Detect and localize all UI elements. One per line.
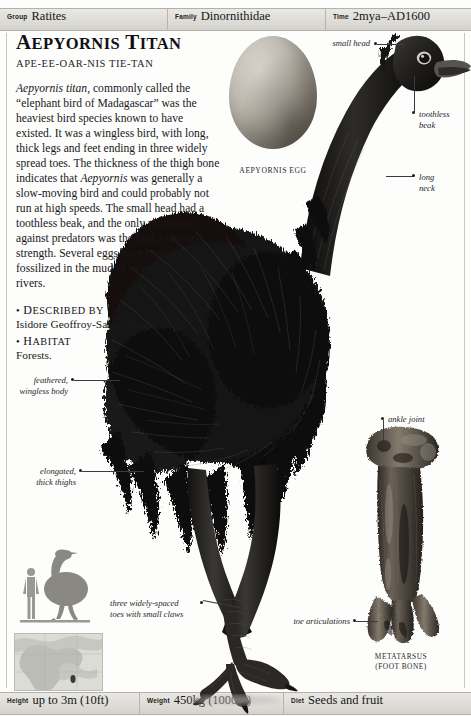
bone-caption-line2: (FOOT BONE) — [340, 662, 462, 672]
annotation-toothless-beak-line1: toothless — [419, 109, 450, 120]
annotation-small-head: small head — [308, 38, 370, 49]
fact-file-page: Group Ratites Family Dinornithidae Time … — [0, 0, 471, 716]
metatarsus-bone-photo — [358, 424, 444, 646]
article-text-column: AEPYORNIS TITAN APE-EE-OAR-NIS TIE-TAN A… — [16, 30, 221, 363]
annotation-toothless-beak-dot — [412, 111, 415, 114]
habitat-value: Forests. — [16, 349, 221, 363]
title-second-initial: T — [125, 30, 139, 54]
section-heading-habitat: • HABITAT — [16, 334, 221, 349]
annotation-toe-articulations-leader — [356, 621, 378, 622]
species-name-italic-2: Aepyornis — [80, 172, 127, 185]
annotation-feathered-body-line1: feathered, — [8, 375, 68, 386]
title-rest: EPYORNIS — [32, 34, 120, 53]
annotation-small-head-dot — [374, 42, 377, 45]
annotation-toothless-beak-leader — [414, 76, 415, 112]
annotation-feathered-body-dot — [71, 378, 74, 381]
pronunciation-guide: APE-EE-OAR-NIS TIE-TAN — [16, 58, 221, 69]
annotation-long-neck-dot — [412, 174, 415, 177]
aepyornis-egg-photo — [229, 36, 317, 149]
annotation-small-head-leader — [377, 44, 405, 45]
description-paragraph: Aepyornis titan, commonly called the “el… — [16, 81, 221, 292]
annotation-three-toes-line1: three widely-spaced — [110, 598, 183, 609]
annotation-long-neck-line2: neck — [419, 183, 435, 194]
description-part-2: was generally a slow-moving bird and cou… — [16, 172, 217, 290]
annotation-toe-articulations-dot — [353, 619, 356, 622]
annotation-ankle-joint: ankle joint — [388, 414, 425, 425]
distribution-map — [14, 633, 103, 691]
annotation-toothless-beak-line2: beak — [419, 120, 450, 131]
annotation-elongated-thighs-line2: thick thighs — [20, 477, 76, 488]
annotation-feathered-body-leader — [74, 380, 120, 381]
annotation-long-neck-leader — [386, 176, 413, 177]
annotation-toothless-beak: toothless beak — [419, 109, 450, 131]
annotation-ankle-joint-leader — [383, 420, 384, 440]
section-heading-described-by: • DESCRIBED BY — [16, 303, 221, 318]
species-name-italic-1: Aepyornis titan — [16, 82, 87, 95]
annotation-three-toes-dot — [200, 601, 203, 604]
bullet-habitat: • — [16, 336, 20, 347]
title-initial: A — [16, 30, 32, 54]
annotation-long-neck: long neck — [419, 172, 435, 194]
bullet-described-by: • — [16, 305, 20, 316]
annotation-elongated-thighs-leader — [82, 471, 144, 472]
page-title: AEPYORNIS TITAN — [16, 30, 221, 55]
title-second-rest: ITAN — [140, 34, 182, 53]
habitat-rest: ABITAT — [32, 336, 70, 347]
annotation-toe-articulations: toe articulations — [288, 616, 350, 627]
annotation-feathered-body-line2: wingless body — [8, 386, 68, 397]
bone-caption-line1: METATARSUS — [340, 652, 462, 662]
bone-caption: METATARSUS (FOOT BONE) — [340, 652, 462, 672]
described-by-value: Isidore Geoffroy-Saint-Hilaire; 1851. — [16, 318, 221, 332]
annotation-elongated-thighs: elongated, thick thighs — [20, 466, 76, 488]
annotation-elongated-thighs-line1: elongated, — [20, 466, 76, 477]
described-by-rest: ESCRIBED BY — [32, 305, 103, 316]
annotation-elongated-thighs-dot — [79, 469, 82, 472]
egg-caption: AEPYORNIS EGG — [229, 166, 317, 175]
annotation-ankle-joint-dot — [381, 417, 384, 420]
scale-comparison-diagram — [14, 545, 101, 631]
annotation-feathered-body: feathered, wingless body — [8, 375, 68, 397]
description-part-1: , commonly called the “elephant bird of … — [16, 82, 219, 185]
annotation-three-toes-line2: toes with small claws — [110, 609, 183, 620]
annotation-long-neck-line1: long — [419, 172, 435, 183]
annotation-three-toes: three widely-spaced toes with small claw… — [110, 598, 183, 620]
